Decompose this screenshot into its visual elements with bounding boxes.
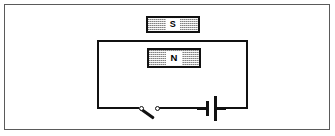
physics-circuit-diagram: S N [0,0,335,136]
bar-magnet-south: S [146,16,200,33]
magnet-pole-label-s: S [166,19,180,30]
switch-terminal-right-icon [155,106,160,111]
magnet-pole-label-n: N [166,51,181,65]
battery-lead-right [216,107,226,110]
switch-terminal-left-icon [139,106,144,111]
battery-negative-plate-icon [206,101,209,116]
bar-magnet-north: N [147,48,201,68]
